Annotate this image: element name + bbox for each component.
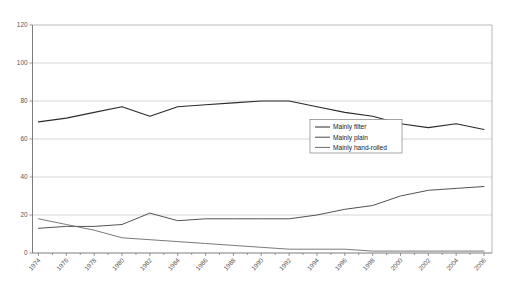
y-tick-label-20: 20: [20, 211, 28, 218]
y-tick-label-0: 0: [24, 249, 28, 256]
y-tick-label-120: 120: [17, 21, 28, 28]
y-tick-label-60: 60: [20, 135, 28, 142]
y-tick-label-80: 80: [20, 97, 28, 104]
legend-label-mainly-hand-rolled: Mainly hand-rolled: [333, 144, 387, 152]
legend-label-mainly-filter: Mainly filter: [333, 123, 367, 131]
y-tick-label-40: 40: [20, 173, 28, 180]
legend-label-mainly-plain: Mainly plain: [333, 134, 368, 142]
line-chart-plot: 120100806040200 197419761978198019821984…: [0, 0, 507, 286]
chart-figure: (a) Men 120100806040200 1974197619781980…: [0, 0, 507, 286]
chart-background: [0, 0, 507, 286]
y-tick-label-100: 100: [17, 59, 28, 66]
chart-legend: Mainly filterMainly plainMainly hand-rol…: [310, 120, 402, 154]
